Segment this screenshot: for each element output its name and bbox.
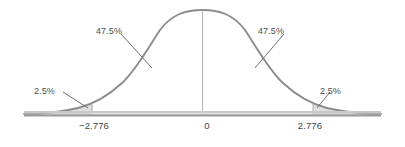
left-tail-leader-line: [63, 92, 88, 108]
x-tick-label-positive-critical: 2.776: [282, 120, 338, 131]
normal-distribution-chart: 2.5% 47.5% 47.5% 2.5% −2.776 0 2.776: [0, 0, 405, 147]
annotation-right-tail-percent: 2.5%: [320, 86, 341, 96]
annotation-left-body-percent: 47.5%: [96, 26, 122, 36]
x-tick-label-negative-critical: −2.776: [66, 120, 122, 131]
x-tick-label-zero: 0: [186, 120, 228, 131]
annotation-left-tail-percent: 2.5%: [34, 86, 55, 96]
annotation-right-body-percent: 47.5%: [258, 26, 284, 36]
